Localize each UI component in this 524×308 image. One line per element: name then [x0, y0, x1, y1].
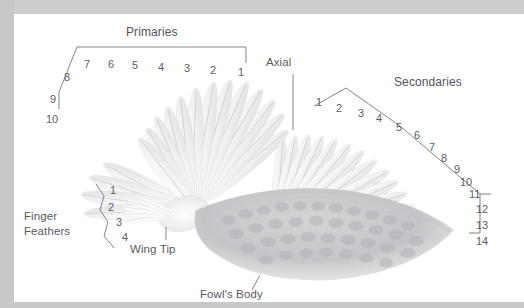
label-axial: Axial — [266, 56, 291, 69]
secondaries-number-2: 2 — [336, 103, 342, 114]
secondaries-number-3: 3 — [358, 108, 364, 119]
primaries-number-10: 10 — [46, 114, 58, 125]
finger-number-3: 3 — [116, 217, 122, 228]
secondaries-number-8: 8 — [441, 153, 447, 164]
primaries-number-8: 8 — [64, 72, 70, 83]
primaries-number-4: 4 — [158, 62, 164, 73]
fowls-body-group — [195, 188, 454, 280]
secondaries-number-7: 7 — [429, 142, 435, 153]
secondaries-number-5: 5 — [396, 122, 402, 133]
label-wing-tip: Wing Tip — [130, 243, 176, 256]
secondaries-number-13: 13 — [476, 220, 488, 231]
secondaries-number-14: 14 — [476, 236, 488, 247]
secondaries-number-11: 11 — [469, 189, 480, 200]
label-finger-feathers-line1: Finger — [24, 210, 57, 223]
finger-number-1: 1 — [110, 185, 116, 196]
label-secondaries: Secondaries — [394, 76, 462, 89]
primaries-number-9: 9 — [50, 94, 56, 105]
primaries-number-5: 5 — [132, 60, 138, 71]
secondaries-number-12: 12 — [476, 204, 488, 215]
frame-bottom-band — [0, 302, 524, 308]
primaries-number-3: 3 — [184, 63, 190, 74]
primaries-number-2: 2 — [210, 65, 216, 76]
secondaries-number-6: 6 — [414, 130, 420, 141]
frame-left-band — [0, 0, 14, 308]
figure-frame: Primaries Secondaries Axial Finger Feath… — [0, 0, 524, 308]
secondaries-number-9: 9 — [454, 164, 460, 175]
label-fowls-body: Fowl's Body — [200, 288, 263, 301]
illustration-plate: Primaries Secondaries Axial Finger Feath… — [14, 14, 524, 302]
label-primaries: Primaries — [126, 26, 178, 39]
secondaries-number-4: 4 — [376, 113, 382, 124]
label-finger-feathers-line2: Feathers — [24, 225, 70, 238]
frame-top-band — [0, 0, 524, 14]
finger-number-4: 4 — [122, 232, 128, 243]
finger-number-2: 2 — [108, 202, 114, 213]
primaries-number-7: 7 — [84, 59, 90, 70]
secondaries-number-10: 10 — [460, 177, 472, 188]
primaries-number-6: 6 — [108, 59, 114, 70]
secondaries-number-1: 1 — [316, 97, 322, 108]
primaries-number-1: 1 — [238, 67, 244, 78]
